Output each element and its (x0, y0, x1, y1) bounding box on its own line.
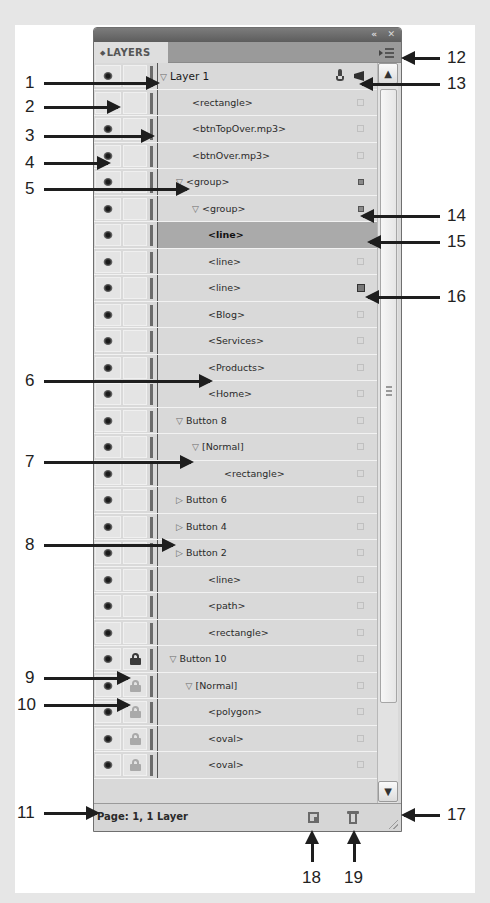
visibility-toggle[interactable] (95, 436, 121, 458)
object-row[interactable]: <Products> (94, 355, 377, 382)
lock-toggle[interactable] (123, 463, 147, 485)
row-label[interactable]: <btnTopOver.mp3> (192, 116, 286, 142)
selection-indicator[interactable] (357, 523, 364, 530)
row-label[interactable]: <path> (208, 593, 246, 619)
row-label[interactable]: <rectangle> (192, 90, 253, 116)
lock-toggle[interactable] (123, 92, 147, 114)
lock-toggle[interactable] (123, 357, 147, 379)
lock-toggle[interactable] (123, 436, 147, 458)
row-label[interactable]: ▽<group> (192, 196, 245, 222)
close-panel-icon[interactable]: ✕ (387, 28, 395, 42)
selection-indicator[interactable] (357, 602, 364, 609)
selection-indicator[interactable] (357, 735, 364, 742)
visibility-toggle[interactable] (95, 754, 121, 776)
object-row[interactable]: <btnOver.mp3> (94, 143, 377, 170)
lock-toggle[interactable] (123, 251, 147, 273)
lock-toggle[interactable] (123, 489, 147, 511)
visibility-toggle[interactable] (95, 728, 121, 750)
visibility-toggle[interactable] (95, 622, 121, 644)
row-label[interactable]: <Products> (208, 355, 265, 381)
panel-titlebar[interactable]: « ✕ (94, 28, 401, 42)
row-label[interactable]: ▽Layer 1 (160, 63, 209, 89)
selection-indicator[interactable] (357, 417, 364, 424)
lock-toggle[interactable] (123, 622, 147, 644)
object-row[interactable]: ▽Button 8 (94, 408, 377, 435)
row-label[interactable]: <Blog> (208, 302, 245, 328)
row-label[interactable]: ▷Button 2 (176, 540, 227, 566)
object-row[interactable]: <line> (94, 275, 377, 302)
lock-toggle[interactable] (123, 198, 147, 220)
lock-toggle[interactable] (123, 569, 147, 591)
row-label[interactable]: <line> (208, 567, 241, 593)
object-row[interactable]: ▷Button 4 (94, 514, 377, 541)
row-label[interactable]: <Home> (208, 381, 252, 407)
row-label[interactable]: ▷Button 6 (176, 487, 227, 513)
visibility-toggle[interactable] (95, 595, 121, 617)
object-row[interactable]: ▽Button 10 (94, 646, 377, 673)
collapse-panel-icon[interactable]: « (371, 28, 377, 42)
row-label[interactable]: <oval> (208, 752, 244, 778)
lock-toggle[interactable] (123, 728, 147, 750)
object-row[interactable]: <line> (94, 567, 377, 594)
vertical-scrollbar[interactable]: ▲ ▼ (377, 63, 398, 803)
row-label[interactable]: ▽[Normal] (186, 673, 238, 699)
object-row[interactable]: ▽<group> (94, 196, 377, 223)
object-row[interactable]: <oval> (94, 752, 377, 779)
row-label[interactable]: <line> (208, 222, 244, 248)
selection-indicator[interactable] (357, 364, 364, 371)
row-label[interactable]: ▽Button 10 (170, 646, 227, 672)
visibility-toggle[interactable] (95, 304, 121, 326)
selection-indicator[interactable] (357, 496, 364, 503)
row-label[interactable]: ▽[Normal] (192, 434, 244, 460)
delete-layer-button[interactable] (347, 810, 360, 824)
object-row[interactable]: <Blog> (94, 302, 377, 329)
row-label[interactable]: <polygon> (208, 699, 262, 725)
lock-toggle[interactable] (123, 595, 147, 617)
visibility-toggle[interactable] (95, 648, 121, 670)
row-label[interactable]: <rectangle> (208, 620, 269, 646)
lock-toggle[interactable] (123, 754, 147, 776)
row-label[interactable]: ▽Button 8 (176, 408, 227, 434)
visibility-toggle[interactable] (95, 410, 121, 432)
selection-indicator[interactable] (357, 761, 364, 768)
lock-toggle[interactable] (123, 648, 147, 670)
visibility-toggle[interactable] (95, 463, 121, 485)
lock-toggle[interactable] (123, 145, 147, 167)
selection-indicator[interactable] (357, 549, 364, 556)
object-row[interactable]: <path> (94, 593, 377, 620)
selection-indicator[interactable] (357, 258, 364, 265)
row-label[interactable]: <Services> (208, 328, 264, 354)
visibility-toggle[interactable] (95, 277, 121, 299)
object-row[interactable]: ▷Button 6 (94, 487, 377, 514)
expand-triangle-open-icon[interactable]: ▽ (192, 196, 199, 222)
row-label[interactable]: <btnOver.mp3> (192, 143, 270, 169)
expand-triangle-open-icon[interactable]: ▽ (186, 673, 193, 699)
expand-triangle-closed-icon[interactable]: ▷ (176, 540, 183, 566)
lock-toggle[interactable] (123, 330, 147, 352)
object-row[interactable]: <rectangle> (94, 461, 377, 488)
lock-toggle[interactable] (123, 224, 147, 246)
row-label[interactable]: <oval> (208, 726, 244, 752)
object-row[interactable]: ▽[Normal] (94, 434, 377, 461)
selection-indicator[interactable] (357, 576, 364, 583)
expand-triangle-open-icon[interactable]: ▽ (160, 64, 167, 90)
selection-indicator[interactable] (358, 179, 364, 185)
selection-indicator[interactable] (357, 390, 364, 397)
selection-indicator[interactable] (357, 125, 364, 132)
row-label[interactable]: <line> (208, 275, 241, 301)
scroll-down-button[interactable]: ▼ (378, 781, 398, 802)
object-row[interactable]: <rectangle> (94, 620, 377, 647)
selection-indicator[interactable] (357, 682, 364, 689)
visibility-toggle[interactable] (95, 224, 121, 246)
object-row[interactable]: ▽<group> (94, 169, 377, 196)
visibility-toggle[interactable] (95, 569, 121, 591)
selection-indicator[interactable] (357, 152, 364, 159)
object-row[interactable]: <btnTopOver.mp3> (94, 116, 377, 143)
lock-toggle[interactable] (123, 410, 147, 432)
expand-triangle-closed-icon[interactable]: ▷ (176, 514, 183, 540)
selection-indicator[interactable] (357, 311, 364, 318)
visibility-toggle[interactable] (95, 357, 121, 379)
row-label[interactable]: ▷Button 4 (176, 514, 227, 540)
visibility-toggle[interactable] (95, 251, 121, 273)
lock-toggle[interactable] (123, 383, 147, 405)
